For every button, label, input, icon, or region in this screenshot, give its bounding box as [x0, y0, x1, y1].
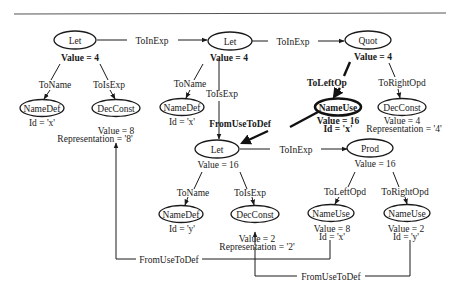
edge-quot-to-nameuse1: ToLeftOp: [307, 62, 350, 97]
edge-label: ToInExp: [135, 36, 168, 46]
edge-let3-to-prod: ToInExp: [240, 145, 347, 155]
node-nameuse1-highlighted: NameUse Value = 16 Id = 'x': [315, 99, 361, 135]
edge-let1-to-decconst1: ToIsExp: [93, 64, 125, 99]
node-attr: Id = 'y': [169, 224, 195, 234]
node-label: DecConst: [236, 210, 274, 220]
node-attr: Representation = '2': [219, 242, 295, 252]
node-nameuse2: NameUse Value = 8 Id = 'x': [308, 205, 354, 243]
node-let2: Let Value = 4: [208, 32, 252, 63]
node-prod: Prod Value = 16: [347, 139, 396, 169]
node-quot: Quot Value = 4: [345, 31, 392, 62]
node-label: Quot: [359, 36, 378, 46]
edge-let3-to-namedef3: ToName: [177, 172, 210, 205]
node-label: DecConst: [383, 103, 421, 113]
node-attr: Value = 4: [354, 52, 392, 62]
node-decconst2: DecConst Value = 4 Representation = '4': [366, 99, 442, 135]
edge-label: ToRightOpd: [378, 78, 426, 88]
edge-label: ToLeftOp: [307, 78, 347, 88]
node-attr: Value = 16: [197, 160, 238, 170]
edge-nameuse1-to-let3: FromUseToDef: [209, 112, 318, 143]
edge-label: ToRightOpd: [381, 187, 429, 197]
node-attr: Id = 'y': [393, 232, 419, 242]
node-label: NameDef: [163, 210, 201, 220]
node-label: NameUse: [319, 103, 358, 113]
node-label: NameUse: [388, 209, 425, 219]
node-attr: Id = 'x': [169, 117, 195, 127]
edge-let1-to-namedef1: ToName: [39, 64, 72, 99]
header-rule: [14, 13, 446, 14]
edge-label: ToIsExp: [206, 89, 238, 99]
node-label: Let: [211, 145, 224, 155]
node-label: NameDef: [164, 103, 202, 113]
syntax-tree-diagram: ToInExp ToName ToIsExp ToInExp ToName To…: [0, 0, 454, 296]
edge-label: FromUseToDef: [209, 119, 272, 129]
edge-label: ToInExp: [276, 37, 309, 47]
edge-quot-to-decconst2: ToRightOpd: [378, 63, 426, 98]
node-label: Prod: [361, 144, 379, 154]
node-label: Let: [224, 37, 237, 47]
edge-let2-to-quot: ToInExp: [252, 37, 344, 47]
edge-label: FromUseToDef: [301, 272, 361, 282]
edge-label: ToLeftOpd: [324, 187, 366, 197]
edge-label: ToName: [174, 79, 207, 89]
edge-label: ToName: [177, 188, 210, 198]
node-decconst1: DecConst Value = 8 Representation = '8': [57, 100, 140, 145]
node-attr: Value = 4: [61, 53, 99, 63]
node-namedef3: NameDef Id = 'y': [159, 206, 203, 235]
edge-label: FromUseToDef: [139, 255, 199, 265]
edge-let1-to-let2: ToInExp: [97, 36, 207, 46]
node-label: NameUse: [312, 209, 349, 219]
node-namedef1: NameDef Id = 'x': [20, 100, 64, 129]
edge-let2-to-namedef2: ToName: [174, 64, 207, 98]
node-label: Let: [69, 36, 82, 46]
edge-label: ToIsExp: [93, 80, 125, 90]
node-label: DecConst: [97, 104, 135, 114]
edge-prod-to-nameuse2: ToLeftOpd: [324, 172, 366, 204]
node-attr: Id = 'x': [29, 118, 55, 128]
node-attr: Value = 16: [354, 159, 395, 169]
node-attr: Id = 'x': [323, 124, 352, 134]
node-namedef2: NameDef Id = 'x': [160, 99, 204, 128]
node-nameuse3: NameUse Value = 2 Id = 'y': [384, 205, 430, 243]
edge-label: ToIsExp: [234, 188, 266, 198]
node-attr: Id = 'x': [319, 232, 345, 242]
node-attr: Representation = '8': [57, 134, 133, 144]
node-let1: Let Value = 4: [54, 31, 99, 63]
edge-label: ToInExp: [279, 145, 312, 155]
node-label: NameDef: [24, 104, 62, 114]
node-attr: Value = 4: [210, 53, 248, 63]
edge-let3-to-decconst3: ToIsExp: [234, 172, 266, 205]
node-attr: Representation = '4': [366, 124, 442, 134]
node-decconst3: DecConst Value = 2 Representation = '2': [219, 206, 295, 253]
edge-label: ToName: [39, 80, 72, 90]
edge-prod-to-nameuse3: ToRightOpd: [381, 172, 429, 204]
node-let3: Let Value = 16: [195, 140, 239, 170]
